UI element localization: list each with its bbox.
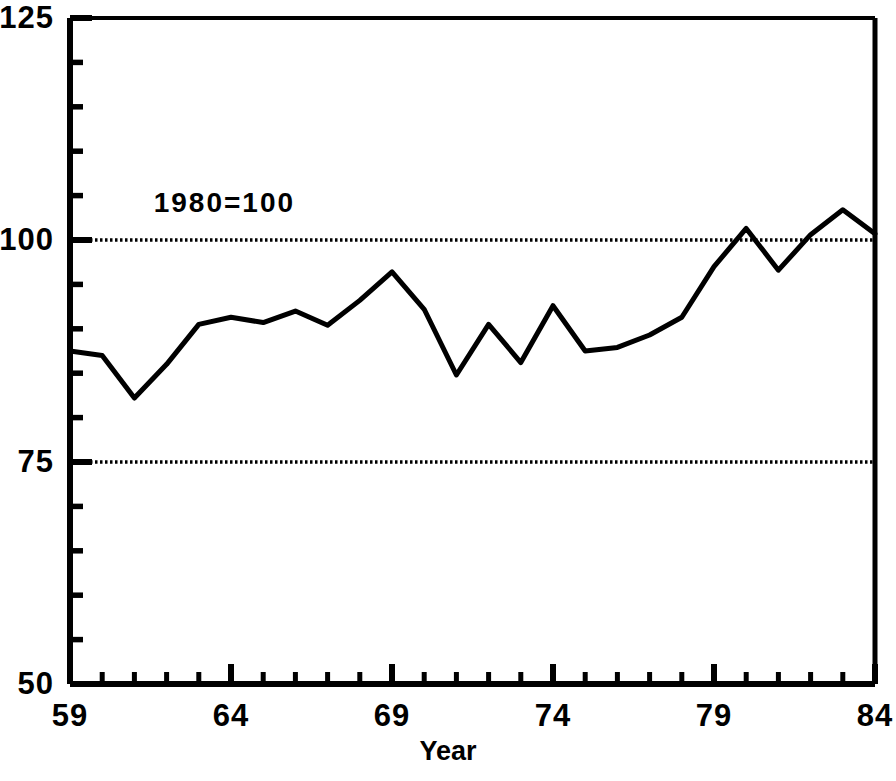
chart-plot-area [0,0,896,781]
y-tick-label-75: 75 [18,446,54,477]
x-tick-label-79: 79 [674,700,754,731]
series-line-path [70,210,875,398]
data-series-line [70,210,875,398]
x-tick-label-59: 59 [30,700,110,731]
x-tick-label-84: 84 [835,700,896,731]
x-tick-label-64: 64 [191,700,271,731]
y-tick-label-100: 100 [0,224,54,255]
x-tick-label-74: 74 [513,700,593,731]
line-chart: 1251007550 596469747984 1980=100 Year [0,0,896,781]
x-tick-label-69: 69 [352,700,432,731]
y-tick-label-125: 125 [0,2,54,33]
index-annotation-label: 1980=100 [154,189,295,217]
y-tick-label-50: 50 [18,668,54,699]
x-axis-title: Year [0,738,896,765]
